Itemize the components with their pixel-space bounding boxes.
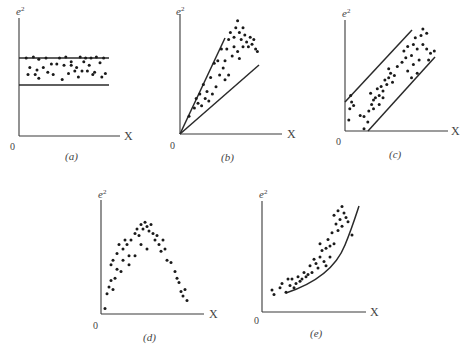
data-point <box>124 239 127 242</box>
data-point <box>254 48 257 51</box>
data-point <box>233 36 236 39</box>
data-point <box>329 256 332 259</box>
data-point <box>319 256 322 259</box>
data-point <box>427 59 430 62</box>
data-point <box>216 59 219 62</box>
data-point <box>378 94 381 97</box>
panel-a: e2 X 0 (a) <box>10 5 133 163</box>
data-point <box>350 101 353 104</box>
data-point <box>104 307 107 310</box>
data-point <box>366 121 369 124</box>
data-point <box>387 67 390 70</box>
data-point <box>293 286 296 289</box>
data-point <box>162 239 165 242</box>
data-point <box>406 70 409 73</box>
data-point <box>138 234 141 237</box>
data-point <box>114 277 117 280</box>
origin-label: 0 <box>10 141 15 152</box>
origin-label: 0 <box>170 140 175 151</box>
data-point <box>148 230 151 233</box>
data-point <box>197 102 200 105</box>
panel-b: e2 X 0 (b) <box>170 5 296 164</box>
x-axis-label: X <box>209 307 218 321</box>
data-point <box>406 45 409 48</box>
data-point <box>82 60 85 63</box>
data-point <box>215 85 218 88</box>
data-point <box>156 234 159 237</box>
data-point <box>369 92 372 95</box>
data-point <box>247 45 250 48</box>
data-point <box>343 212 346 215</box>
data-point <box>271 289 274 292</box>
data-point <box>46 71 49 74</box>
data-point <box>329 245 332 248</box>
data-point <box>249 36 252 39</box>
data-point <box>55 63 58 66</box>
data-point <box>134 232 137 235</box>
y-axis-label: e2 <box>342 7 351 19</box>
data-point <box>198 92 201 95</box>
data-point <box>220 48 223 51</box>
scatter-points <box>188 19 259 118</box>
data-point <box>337 209 340 212</box>
scatter-points <box>104 221 189 310</box>
data-point <box>303 271 306 274</box>
data-point <box>170 261 173 264</box>
panel-caption: (a) <box>65 150 78 163</box>
data-point <box>234 26 237 29</box>
panel-caption: (d) <box>143 331 156 344</box>
data-point <box>88 64 91 67</box>
data-point <box>416 47 419 50</box>
data-point <box>321 249 324 252</box>
data-point <box>281 282 284 285</box>
data-point <box>50 63 53 66</box>
data-point <box>144 221 147 224</box>
data-point <box>202 83 205 86</box>
data-point <box>110 279 113 282</box>
data-point <box>25 57 28 60</box>
data-point <box>297 275 300 278</box>
data-point <box>370 103 373 106</box>
data-point <box>77 76 80 79</box>
data-point <box>333 242 336 245</box>
x-axis-label: X <box>287 127 296 141</box>
data-point <box>420 34 423 37</box>
data-point <box>188 115 191 118</box>
data-point <box>315 262 318 265</box>
data-point <box>184 288 187 291</box>
panel-caption: (b) <box>221 151 234 164</box>
data-point <box>128 263 131 266</box>
data-point <box>325 264 328 267</box>
data-point <box>240 38 243 41</box>
data-point <box>182 295 185 298</box>
data-point <box>211 92 214 95</box>
data-point <box>37 77 40 80</box>
data-point <box>140 243 143 246</box>
data-point <box>251 43 254 46</box>
data-point <box>213 62 216 65</box>
data-point <box>313 258 316 261</box>
data-point <box>218 74 221 77</box>
data-point <box>382 90 385 93</box>
data-point <box>325 247 328 250</box>
data-point <box>130 239 133 242</box>
data-point <box>243 33 246 36</box>
data-point <box>207 100 210 103</box>
data-point <box>64 55 67 58</box>
data-point <box>206 90 209 93</box>
data-point <box>158 243 161 246</box>
y-axis-label: e2 <box>259 188 268 200</box>
data-point <box>84 57 87 60</box>
data-point <box>236 19 239 22</box>
origin-label: 0 <box>336 136 341 147</box>
data-point <box>91 73 94 76</box>
data-point <box>352 104 355 107</box>
panel-caption: (c) <box>389 148 402 161</box>
data-point <box>222 66 225 69</box>
data-point <box>146 248 149 251</box>
data-point <box>122 259 125 262</box>
data-point <box>61 78 64 81</box>
data-point <box>339 218 342 221</box>
data-point <box>166 259 169 262</box>
data-point <box>75 66 78 69</box>
